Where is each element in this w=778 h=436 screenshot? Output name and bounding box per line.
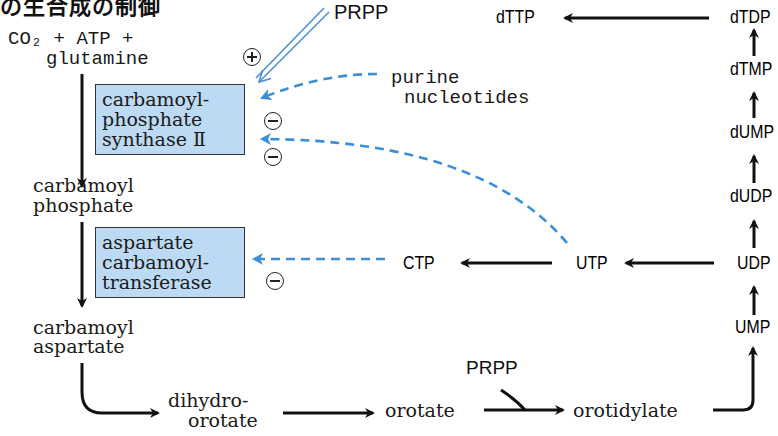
dihydroorotate-line1: dihydro- xyxy=(168,391,248,410)
activation-plus-icon xyxy=(243,48,261,66)
purine-label-line2: nucleotides xyxy=(404,89,529,108)
carbamoyl-aspartate-line2: aspartate xyxy=(33,337,125,356)
nucleotide-dtmp: dTMP xyxy=(730,60,772,78)
pyrimidine-biosynthesis-diagram: の生合成の制御 CO₂ + ATP + glutamine PRPP purin… xyxy=(0,0,778,436)
prpp-activator-label: PRPP xyxy=(334,2,388,22)
inhibition-minus-icon-purine xyxy=(264,112,282,130)
orotate-label: orotate xyxy=(385,401,455,420)
utp-inhibition-arrow xyxy=(262,139,567,243)
nucleotide-dump: dUMP xyxy=(730,123,774,141)
nucleotide-dttp: dTTP xyxy=(496,8,535,26)
nucleotide-udp: UDP xyxy=(737,254,770,272)
nucleotide-utp: UTP xyxy=(576,254,608,272)
title-fragment: の生合成の制御 xyxy=(0,0,161,20)
substrates-line2: glutamine xyxy=(46,50,149,69)
prpp-bottom-label: PRPP xyxy=(466,358,518,377)
carbamoyl-phosphate-line1: carbamoyl xyxy=(33,176,134,195)
inhibition-minus-icon-utp xyxy=(264,148,282,166)
nucleotide-dtdp: dTDP xyxy=(730,8,770,26)
purine-label-line1: purine xyxy=(391,69,459,88)
prpp-joining-curve xyxy=(501,390,525,410)
purine-inhibition-arrow xyxy=(262,74,377,98)
prpp-activation-arrow-b xyxy=(259,12,329,82)
inhibition-minus-icon-ctp xyxy=(266,272,284,290)
enzyme-aspartate-carbamoyltransferase: aspartate carbamoyl- transferase xyxy=(95,227,245,298)
carbamoyl-phosphate-line2: phosphate xyxy=(33,196,133,215)
nucleotide-dudp: dUDP xyxy=(730,187,772,205)
enzyme-carbamoyl-phosphate-synthase-ii: carbamoyl- phosphate synthase Ⅱ xyxy=(95,84,245,155)
dihydroorotate-line2: orotate xyxy=(188,411,258,430)
arrow-to-dihydroorotate xyxy=(82,363,158,413)
substrates-line1: CO₂ + ATP + xyxy=(8,30,133,49)
nucleotide-ump: UMP xyxy=(735,318,770,336)
arrow-to-ump xyxy=(713,348,753,410)
prpp-activation-arrow-a xyxy=(256,8,324,78)
orotidylate-label: orotidylate xyxy=(573,401,678,420)
nucleotide-ctp: CTP xyxy=(403,254,435,272)
